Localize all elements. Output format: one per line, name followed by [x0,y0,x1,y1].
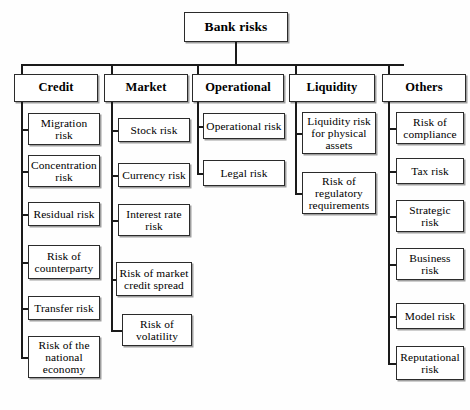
child-connector-line-market-2 [111,175,118,177]
leaf-node-risk-of-the-national-economy-label: Risk of the national economy [31,339,97,376]
category-node-market: Market [104,74,188,102]
root-node-bank-risks: Bank risks [184,12,288,42]
leaf-node-model-risk: Model risk [396,303,464,329]
leaf-node-transfer-risk: Transfer risk [28,296,100,320]
child-connector-line-others-6 [388,363,396,365]
child-connector-line-others-3 [388,216,396,218]
leaf-node-business-risk: Business risk [396,248,464,280]
leaf-node-risk-of-compliance-label: Risk of compliance [399,116,461,141]
leaf-node-operational-risk-label: Operational risk [206,120,282,132]
leaf-node-operational-risk: Operational risk [203,113,285,139]
leaf-node-tax-risk-label: Tax risk [399,165,461,177]
leaf-node-interest-rate-risk-label: Interest rate risk [121,208,187,233]
leaf-node-interest-rate-risk: Interest rate risk [118,204,190,236]
leaf-node-risk-of-counterparty: Risk of counterparty [28,245,100,279]
leaf-node-migration-risk-label: Migration risk [31,117,97,142]
leaf-node-business-risk-label: Business risk [399,252,461,277]
leaf-node-concentration-risk: Concentration risk [28,155,100,187]
child-spine-line-market [111,102,113,332]
leaf-node-risk-of-the-national-economy: Risk of the national economy [28,336,100,378]
leaf-node-risk-of-regulatory-requirements: Risk of regulatory requirements [302,172,376,214]
child-spine-line-others [388,102,390,365]
leaf-node-liquidity-risk-for-physical-assets-label: Liquidity risk for physical assets [305,115,373,152]
leaf-node-liquidity-risk-for-physical-assets: Liquidity risk for physical assets [302,112,376,154]
leaf-node-transfer-risk-label: Transfer risk [31,302,97,314]
leaf-node-currency-risk-label: Currency risk [121,169,187,181]
child-connector-line-others-2 [388,171,396,173]
category-bus-line [22,64,404,66]
root-stem-line [235,42,237,66]
category-node-others: Others [382,74,466,102]
child-connector-line-market-1 [111,130,118,132]
leaf-node-risk-of-regulatory-requirements-label: Risk of regulatory requirements [305,175,373,212]
leaf-node-reputational-risk-label: Reputational risk [399,351,461,376]
child-connector-line-market-5 [111,330,122,332]
category-node-operational-label: Operational [195,81,281,95]
category-node-others-label: Others [385,81,463,95]
bank-risks-diagram: Bank risksCreditMigration riskConcentrat… [0,0,470,410]
leaf-node-stock-risk-label: Stock risk [121,124,187,136]
category-node-liquidity: Liquidity [289,74,375,102]
leaf-node-model-risk-label: Model risk [399,310,461,322]
child-spine-line-operational [197,102,199,175]
child-connector-line-credit-3 [21,214,28,216]
leaf-node-stock-risk: Stock risk [118,118,190,142]
leaf-node-residual-risk: Residual risk [28,202,100,226]
category-node-credit: Credit [14,74,98,102]
leaf-node-tax-risk: Tax risk [396,158,464,184]
leaf-node-concentration-risk-label: Concentration risk [31,159,97,184]
child-connector-line-others-5 [388,316,396,318]
leaf-node-risk-of-volatility: Risk of volatility [122,314,192,346]
child-spine-line-credit [21,102,23,359]
root-node-bank-risks-label: Bank risks [187,20,285,35]
child-connector-line-credit-1 [21,129,28,131]
leaf-node-risk-of-counterparty-label: Risk of counterparty [31,250,97,275]
child-connector-line-others-4 [388,264,396,266]
category-node-liquidity-label: Liquidity [292,81,372,95]
child-connector-line-liquidity-1 [295,133,302,135]
leaf-node-strategic-risk-label: Strategic risk [399,204,461,229]
child-connector-line-credit-2 [21,171,28,173]
child-connector-line-credit-5 [21,308,28,310]
leaf-node-risk-of-market-credit-spread-label: Risk of market credit spread [119,267,189,292]
leaf-node-reputational-risk: Reputational risk [396,346,464,380]
leaf-node-risk-of-volatility-label: Risk of volatility [125,318,189,343]
leaf-node-migration-risk: Migration risk [28,113,100,145]
child-spine-line-liquidity [295,102,297,195]
child-connector-line-others-1 [388,128,396,130]
leaf-node-residual-risk-label: Residual risk [31,208,97,220]
leaf-node-risk-of-compliance: Risk of compliance [396,112,464,144]
leaf-node-legal-risk-label: Legal risk [206,167,282,179]
child-connector-line-credit-6 [21,357,28,359]
category-node-operational: Operational [192,74,284,102]
child-connector-line-liquidity-2 [295,193,302,195]
leaf-node-currency-risk: Currency risk [118,163,190,187]
leaf-node-risk-of-market-credit-spread: Risk of market credit spread [116,262,192,296]
leaf-node-strategic-risk: Strategic risk [396,200,464,232]
category-node-credit-label: Credit [17,81,95,95]
child-connector-line-credit-4 [21,262,28,264]
child-connector-line-market-3 [111,220,118,222]
category-node-market-label: Market [107,81,185,95]
leaf-node-legal-risk: Legal risk [203,160,285,186]
